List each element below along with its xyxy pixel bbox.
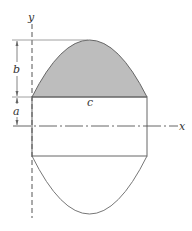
dimension-c-label: c xyxy=(87,96,93,109)
lower-parabolic-curve xyxy=(32,156,147,214)
x-axis-label: x xyxy=(179,120,186,133)
shaded-parabolic-area xyxy=(32,40,147,97)
dimension-a-label: a xyxy=(13,105,20,118)
y-axis-label: y xyxy=(27,11,35,24)
dimension-b-label: b xyxy=(13,63,20,76)
diagram-canvas: y x b a c xyxy=(0,0,192,231)
